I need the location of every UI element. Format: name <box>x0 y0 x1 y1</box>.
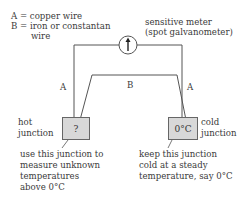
hot-note-2: measure unknown <box>20 160 100 171</box>
hot-junction-label-2: junction <box>18 128 53 139</box>
cold-junction-label-2: junction <box>201 128 236 139</box>
cold-note-3: temperature, say 0°C <box>139 171 233 182</box>
wire-a-left-label: A <box>60 82 66 93</box>
cold-note-2: cold at a steady <box>139 160 208 171</box>
legend-b: B = iron or constantan <box>11 21 110 32</box>
hot-junction-box: ? <box>62 117 90 140</box>
wire-a-right-label: A <box>187 82 193 93</box>
galvanometer-icon <box>119 36 137 54</box>
cold-note-1: keep this junction <box>139 149 217 160</box>
legend-b-cont: wire <box>31 31 50 42</box>
hot-note-4: above 0°C <box>20 182 65 193</box>
hot-note-3: temperatures <box>20 171 79 182</box>
legend-a: A = copper wire <box>11 11 82 22</box>
wire-b-label: B <box>127 80 133 91</box>
hot-junction-label-1: hot <box>18 117 32 128</box>
meter-label-1: sensitive meter <box>145 17 212 28</box>
cold-junction-box: 0°C <box>168 117 198 140</box>
hot-note-1: use this junction to <box>20 149 103 160</box>
cold-junction-label-1: cold <box>201 117 219 128</box>
meter-label-2: (spot galvanometer) <box>145 27 233 38</box>
